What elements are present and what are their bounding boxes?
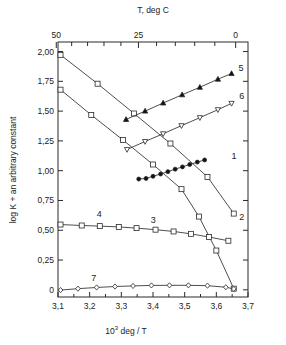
data-point [195,160,199,164]
series-line [61,55,234,214]
top-axis-tick-label: 50 [52,30,62,40]
x-tick-label: 3,1 [52,301,64,311]
curve-label-7: 7 [91,273,96,283]
data-point [167,283,172,288]
y-tick-label: 0,25 [37,255,54,265]
data-point [116,224,121,229]
series-line [61,90,234,289]
data-point [94,285,99,290]
y-tick-label: 1,25 [37,136,54,146]
data-point [58,52,63,57]
data-point [76,286,81,291]
data-point [205,174,210,179]
data-point [229,71,234,76]
series-6 [124,101,234,152]
y-tick-label: 1,50 [37,106,54,116]
data-point [224,285,229,290]
curve-label-1: 1 [232,151,237,161]
data-point [171,229,176,234]
x-tick-label: 3,7 [242,301,254,311]
curve-label-4: 4 [97,209,102,219]
series-1 [137,158,207,181]
y-tick-label: 0 [49,285,54,295]
data-point [196,214,201,219]
data-point [151,174,155,178]
data-point [137,177,141,181]
series-2 [58,52,236,216]
curve-label-5: 5 [239,63,244,73]
curve-label-6: 6 [239,91,244,101]
curve-label-3: 3 [151,215,156,225]
data-point [58,87,63,92]
data-point [173,167,177,171]
data-point [226,238,231,243]
series-5 [123,71,234,122]
data-point [95,81,100,86]
data-point [58,222,63,227]
y-tick-label: 2,00 [37,47,54,57]
series-7 [58,283,236,293]
data-point [207,235,212,240]
x-tick-label: 3,2 [84,301,96,311]
data-point [89,112,94,117]
bottom-axis-title-prefix: 10 [105,326,115,336]
data-point [179,187,184,192]
x-tick-label: 3,6 [210,301,222,311]
y-axis-title: log K + an arbitrary constant [8,116,18,223]
data-point [189,231,194,236]
data-point [205,283,210,288]
series-line [127,103,232,149]
data-point [180,165,184,169]
data-point [203,158,207,162]
y-tick-label: 1,75 [37,76,54,86]
top-axis-tick-label: 0 [233,30,238,40]
data-point [168,141,173,146]
data-point [231,211,236,216]
data-point [149,283,154,288]
x-tick-label: 3,3 [115,301,127,311]
data-point [131,283,136,288]
series-line [139,160,205,179]
data-point [79,223,84,228]
data-point [153,227,158,232]
figure-canvas: 3,13,23,33,43,53,63,700,250,500,751,001,… [0,0,286,345]
x-tick-label: 3,4 [147,301,159,311]
data-point [144,176,148,180]
data-point [58,287,63,292]
data-point [188,162,192,166]
data-point [134,226,139,231]
data-point [97,224,102,229]
data-point [120,137,125,142]
data-point [113,284,118,289]
y-tick-label: 0,75 [37,195,54,205]
data-point [166,170,170,174]
series-4 [58,222,231,243]
y-tick-label: 1,00 [37,166,54,176]
data-point [186,283,191,288]
y-tick-label: 0,50 [37,225,54,235]
bottom-axis-title-suffix: deg / T [118,326,147,336]
top-axis-tick-label: 25 [134,30,144,40]
data-point [214,248,219,253]
curves-layer [58,52,236,292]
series-3 [58,87,236,291]
x-tick-label: 3,5 [179,301,191,311]
series-line [61,225,229,241]
curve-label-2: 2 [239,212,244,222]
labels-layer: 3,13,23,33,43,53,63,700,250,500,751,001,… [37,30,254,311]
bottom-axis-title: 103 deg / T [105,325,146,336]
data-point [124,147,129,152]
data-point [151,162,156,167]
top-axis-title: T, deg C [137,5,169,15]
